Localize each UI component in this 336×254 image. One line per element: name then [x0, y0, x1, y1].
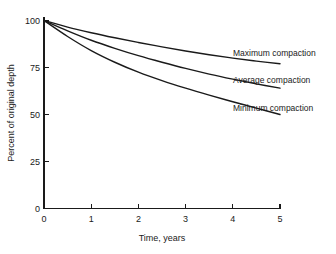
curve-minimum-compaction	[44, 21, 280, 115]
series-label-minimum-compaction: Minimum compaction	[233, 103, 314, 113]
series-label-average-compaction: Average compaction	[233, 75, 311, 85]
chart-svg: 100 75 50 25 0 0 1 2 3 4 5 Time, years P…	[0, 0, 336, 254]
x-tick-label-0: 0	[41, 214, 46, 224]
compaction-chart: 100 75 50 25 0 0 1 2 3 4 5 Time, years P…	[0, 0, 336, 254]
series-label-maximum-compaction: Maximum compaction	[233, 48, 316, 58]
y-tick-label-100: 100	[25, 16, 40, 26]
y-axis-title: Percent of original depth	[6, 64, 16, 162]
x-tick-label-2: 2	[136, 214, 141, 224]
y-tick-label-25: 25	[30, 157, 40, 167]
x-tick-label-5: 5	[277, 214, 282, 224]
x-axis-title: Time, years	[139, 233, 186, 243]
x-tick-label-4: 4	[230, 214, 235, 224]
y-tick-label-75: 75	[30, 63, 40, 73]
y-tick-label-50: 50	[30, 110, 40, 120]
x-tick-label-3: 3	[183, 214, 188, 224]
x-tick-label-1: 1	[89, 214, 94, 224]
y-tick-label-0: 0	[35, 204, 40, 214]
